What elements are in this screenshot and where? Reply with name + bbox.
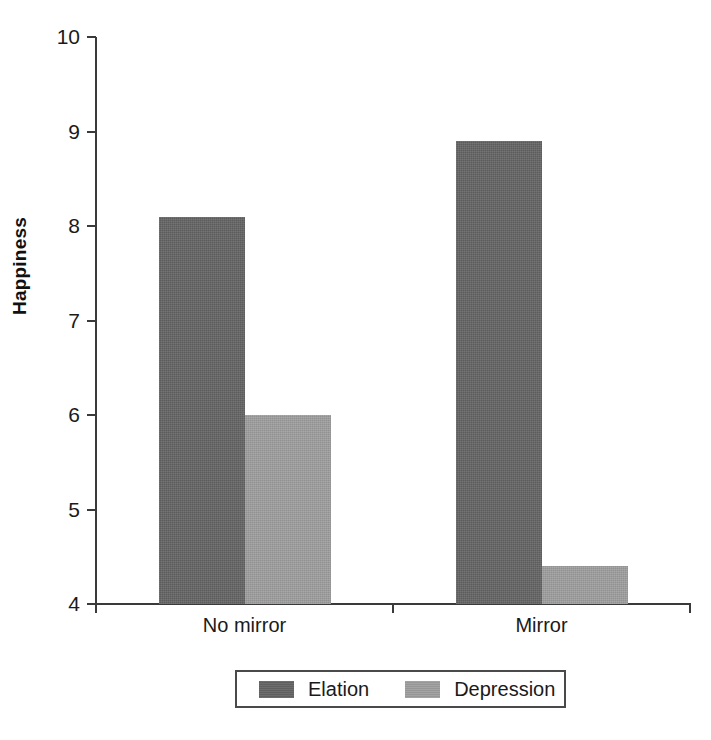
y-axis-tick-label: 8 xyxy=(38,215,80,236)
y-axis-tick-label: 5 xyxy=(38,499,80,520)
y-axis-tick-label: 7 xyxy=(38,310,80,331)
y-axis-tick-label: 9 xyxy=(38,121,80,142)
plot-area xyxy=(96,37,690,604)
legend-entry-elation: Elation xyxy=(259,678,369,700)
y-axis-title: Happiness xyxy=(9,176,31,356)
bar-chart-figure: Happiness 10987654 No mirrorMirror Elati… xyxy=(0,0,711,740)
bar-elation-mirror xyxy=(456,141,542,604)
y-axis-tick-label: 6 xyxy=(38,404,80,425)
y-axis-tick-label: 4 xyxy=(38,593,80,614)
y-axis-tick xyxy=(87,509,96,511)
bar-depression-mirror xyxy=(542,566,628,604)
y-axis-tick xyxy=(87,131,96,133)
x-axis-label-mirror: Mirror xyxy=(422,613,662,637)
legend: ElationDepression xyxy=(235,670,566,708)
x-axis-tick xyxy=(689,604,691,613)
x-axis-label-no-mirror: No mirror xyxy=(125,613,365,637)
legend-label-elation: Elation xyxy=(308,678,369,700)
y-axis-tick xyxy=(87,225,96,227)
y-axis-tick-label: 10 xyxy=(38,26,80,47)
y-axis-tick xyxy=(87,320,96,322)
x-axis-tick xyxy=(392,604,394,613)
legend-label-depression: Depression xyxy=(454,678,555,700)
legend-swatch-depression xyxy=(405,681,440,698)
bar-elation-no-mirror xyxy=(159,217,245,604)
x-axis-tick xyxy=(95,604,97,613)
y-axis-tick xyxy=(87,36,96,38)
y-axis-tick xyxy=(87,414,96,416)
legend-entry-depression: Depression xyxy=(405,678,555,700)
bar-depression-no-mirror xyxy=(245,415,331,604)
legend-swatch-elation xyxy=(259,681,294,698)
